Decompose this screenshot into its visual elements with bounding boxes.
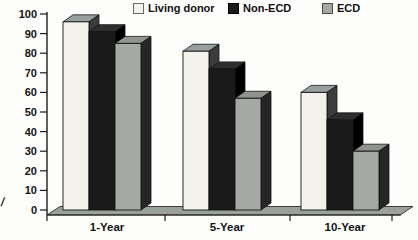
bar-non-ecd-10-year bbox=[327, 120, 353, 210]
legend-label-non-ecd: Non-ECD bbox=[243, 1, 291, 15]
bar-non-ecd-5-year bbox=[209, 69, 235, 210]
bar-chart: 01020304050607080901001-Year5-Year10-Yea… bbox=[0, 0, 418, 240]
bar-ecd-5-year bbox=[235, 98, 261, 210]
y-axis-label: 50 bbox=[25, 106, 37, 118]
x-axis-label: 5-Year bbox=[210, 221, 245, 233]
bar-living-donor-5-year bbox=[183, 51, 209, 210]
legend-label-living-donor: Living donor bbox=[148, 1, 215, 15]
legend: Living donor Non-ECD ECD bbox=[0, 1, 418, 17]
y-axis-label: 30 bbox=[25, 145, 37, 157]
bar-living-donor-1-year bbox=[63, 22, 89, 210]
bar-ecd-10-year bbox=[353, 151, 379, 210]
legend-item-ecd: ECD bbox=[322, 1, 360, 15]
legend-swatch-ecd bbox=[322, 3, 333, 14]
legend-item-living-donor: Living donor bbox=[133, 1, 215, 15]
bar-ecd-1-year-side bbox=[141, 36, 151, 210]
bar-ecd-1-year bbox=[115, 43, 141, 210]
legend-swatch-non-ecd bbox=[228, 3, 239, 14]
chart-canvas: 01020304050607080901001-Year5-Year10-Yea… bbox=[0, 0, 418, 240]
y-axis-label: 80 bbox=[25, 47, 37, 59]
legend-item-non-ecd: Non-ECD bbox=[228, 1, 291, 15]
y-axis-label: 90 bbox=[25, 28, 37, 40]
legend-swatch-living-donor bbox=[133, 3, 144, 14]
bar-ecd-5-year-side bbox=[261, 91, 271, 210]
bar-non-ecd-1-year bbox=[89, 32, 115, 210]
x-axis-label: 10-Year bbox=[325, 221, 366, 233]
bar-ecd-10-year-side bbox=[379, 144, 389, 210]
x-axis-label: 1-Year bbox=[90, 221, 125, 233]
y-axis-label: 70 bbox=[25, 67, 37, 79]
y-axis-label: 0 bbox=[31, 204, 37, 216]
legend-label-ecd: ECD bbox=[337, 1, 360, 15]
y-axis-label: 60 bbox=[25, 86, 37, 98]
y-axis-label: 10 bbox=[25, 184, 37, 196]
y-axis-label: 20 bbox=[25, 165, 37, 177]
y-axis-label: 40 bbox=[25, 126, 37, 138]
bar-living-donor-10-year bbox=[301, 92, 327, 210]
